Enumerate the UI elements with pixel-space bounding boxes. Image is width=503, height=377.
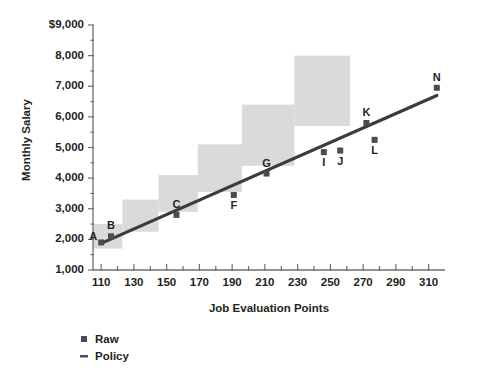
data-point-marker — [363, 120, 369, 126]
x-tick-label: 150 — [157, 276, 176, 288]
y-tick-label: 8,000 — [55, 49, 84, 61]
legend-label-raw: Raw — [95, 333, 119, 345]
y-tick-label: 5,000 — [55, 141, 84, 153]
y-tick-label: 1,000 — [55, 263, 84, 275]
x-tick-label: 290 — [386, 276, 405, 288]
x-tick-label: 110 — [92, 276, 111, 288]
data-point-label: F — [230, 199, 237, 211]
x-axis-title: Job Evaluation Points — [209, 302, 329, 314]
data-point-marker — [98, 239, 104, 245]
data-point-marker — [372, 137, 378, 143]
x-tick-label: 130 — [124, 276, 143, 288]
chart-container: 1,0002,0003,0004,0005,0006,0007,0008,000… — [0, 0, 503, 377]
x-tick-label: 190 — [223, 276, 242, 288]
y-tick-label-group: 1,0002,0003,0004,0005,0006,0007,0008,000… — [49, 18, 84, 275]
data-point-label: I — [322, 156, 325, 168]
x-tick-label: 250 — [321, 276, 340, 288]
x-tick-label: 310 — [419, 276, 438, 288]
grade-band — [294, 56, 350, 126]
data-point-label: N — [433, 71, 441, 83]
data-point-marker — [231, 192, 237, 198]
y-tick-label: 2,000 — [55, 232, 84, 244]
x-tick-label: 210 — [255, 276, 274, 288]
data-point-marker — [264, 171, 270, 177]
data-point-marker — [173, 212, 179, 218]
data-point-label: A — [89, 230, 97, 242]
data-point-marker — [434, 85, 440, 91]
data-point-marker — [337, 148, 343, 154]
data-point-label: L — [371, 144, 378, 156]
scatter-plot-svg: 1,0002,0003,0004,0005,0006,0007,0008,000… — [0, 0, 503, 377]
y-axis-title: Monthly Salary — [20, 99, 32, 181]
x-tick-label: 230 — [288, 276, 307, 288]
y-tick-label: 4,000 — [55, 171, 84, 183]
x-tick-label-group: 110130150170190210230250270290310 — [92, 276, 438, 288]
data-point-label: B — [107, 219, 115, 231]
legend-label-policy: Policy — [95, 350, 129, 362]
data-point-label: G — [262, 157, 271, 169]
data-point-label: K — [362, 106, 370, 118]
y-tick-label: 7,000 — [55, 79, 84, 91]
data-point-label: C — [173, 198, 181, 210]
data-point-label: J — [337, 155, 343, 167]
y-tick-label: 3,000 — [55, 202, 84, 214]
y-tick-label: $9,000 — [49, 18, 84, 30]
data-point-marker — [108, 233, 114, 239]
legend: Raw Policy — [80, 333, 129, 362]
x-tick-label: 170 — [190, 276, 209, 288]
legend-swatch-raw-icon — [81, 336, 87, 342]
x-tick-label: 270 — [354, 276, 373, 288]
y-tick-label: 6,000 — [55, 110, 84, 122]
legend-swatch-policy-icon — [80, 355, 88, 358]
data-point-marker — [321, 149, 327, 155]
